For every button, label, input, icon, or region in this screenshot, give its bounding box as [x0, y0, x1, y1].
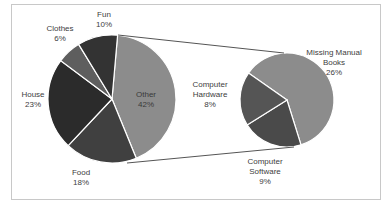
label-clothes: Clothes 6%: [46, 24, 73, 44]
label-fun-name: Fun: [96, 10, 112, 20]
label-books-name-2: Books: [306, 58, 362, 68]
label-other-pct: 42%: [136, 100, 156, 110]
label-fun-pct: 10%: [96, 20, 112, 30]
label-food-pct: 18%: [72, 178, 90, 188]
label-software: Computer Software 9%: [247, 157, 282, 187]
label-house-name: House: [21, 90, 44, 100]
label-hardware-name-1: Computer: [192, 80, 227, 90]
main-pie: [48, 35, 176, 163]
label-books-name-1: Missing Manual: [306, 48, 362, 58]
label-software-name-2: Software: [247, 167, 282, 177]
label-hardware: Computer Hardware 8%: [192, 80, 227, 110]
label-books-pct: 26%: [306, 68, 362, 78]
label-software-pct: 9%: [247, 177, 282, 187]
label-food: Food 18%: [72, 168, 90, 188]
label-house: House 23%: [21, 90, 44, 110]
label-hardware-name-2: Hardware: [192, 90, 227, 100]
label-hardware-pct: 8%: [192, 100, 227, 110]
label-software-name-1: Computer: [247, 157, 282, 167]
label-house-pct: 23%: [21, 100, 44, 110]
label-clothes-name: Clothes: [46, 24, 73, 34]
label-fun: Fun 10%: [96, 10, 112, 30]
label-other-name: Other: [136, 90, 156, 100]
label-food-name: Food: [72, 168, 90, 178]
label-other: Other 42%: [136, 90, 156, 110]
label-clothes-pct: 6%: [46, 34, 73, 44]
label-books: Missing Manual Books 26%: [306, 48, 362, 78]
